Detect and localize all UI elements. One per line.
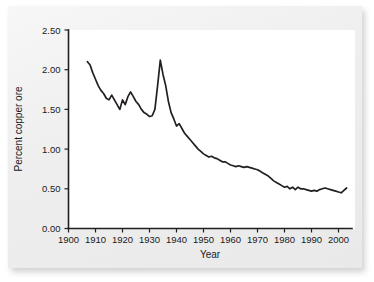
y-tick-label: 0.00 [42,223,61,234]
figure-card: 0.000.501.001.502.002.50 190019101920193… [0,0,374,282]
y-tick-label: 2.50 [42,25,61,36]
x-tick-label: 1900 [58,234,79,245]
x-tick-label: 1910 [85,234,106,245]
x-tick-label: 2000 [328,234,349,245]
x-tick-label: 1990 [301,234,322,245]
y-axis-ticks: 0.000.501.001.502.002.50 [42,25,69,235]
y-axis-title: Percent copper ore [13,86,24,171]
copper-ore-line-chart: 0.000.501.001.502.002.50 190019101920193… [0,0,374,282]
y-tick-label: 1.50 [42,104,61,115]
y-tick-label: 2.00 [42,64,61,75]
x-tick-label: 1950 [193,234,214,245]
copper-ore-series-line [87,60,346,193]
x-tick-label: 1970 [247,234,268,245]
y-tick-label: 0.50 [42,183,61,194]
y-tick-label: 1.00 [42,144,61,155]
x-axis-title: Year [200,249,221,260]
x-axis-ticks: 1900191019201930194019501960197019801990… [58,229,349,245]
x-tick-label: 1980 [274,234,295,245]
x-tick-label: 1940 [166,234,187,245]
x-tick-label: 1930 [139,234,160,245]
x-tick-label: 1960 [220,234,241,245]
x-tick-label: 1920 [112,234,133,245]
